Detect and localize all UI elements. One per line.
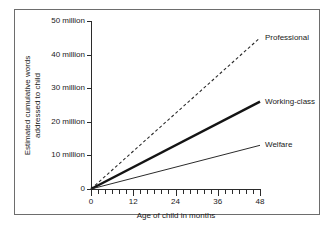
x-tick-28 bbox=[190, 190, 191, 194]
y-axis-title-line1: Estimated cumulative words bbox=[23, 56, 32, 156]
x-tick-14 bbox=[140, 190, 141, 194]
x-tick-34 bbox=[211, 190, 212, 194]
x-tick-38 bbox=[225, 190, 226, 194]
x-tick-10 bbox=[126, 190, 127, 194]
x-tick-12 bbox=[133, 190, 134, 196]
x-tick-30 bbox=[197, 190, 198, 194]
x-tick-22 bbox=[168, 190, 169, 194]
x-tick-label-0: 0 bbox=[89, 198, 93, 206]
x-tick-6 bbox=[112, 190, 113, 194]
x-tick-46 bbox=[253, 190, 254, 194]
series-line-working-class bbox=[91, 102, 260, 189]
x-tick-24 bbox=[176, 190, 177, 196]
series-label-welfare: Welfare bbox=[265, 141, 292, 149]
y-axis-title-line2: addressed to child bbox=[33, 73, 42, 138]
y-tick-label: 10 million bbox=[51, 151, 85, 159]
y-tick-label: 0 bbox=[81, 185, 85, 193]
x-tick-36 bbox=[218, 190, 219, 196]
series-label-working-class: Working-class bbox=[265, 98, 315, 106]
y-tick-label: 30 million bbox=[51, 84, 85, 92]
x-tick-label-24: 24 bbox=[171, 198, 180, 206]
x-tick-4 bbox=[105, 190, 106, 194]
x-tick-label-48: 48 bbox=[256, 198, 265, 206]
x-tick-label-12: 12 bbox=[129, 198, 138, 206]
series-line-welfare bbox=[91, 145, 260, 189]
plot-area bbox=[91, 21, 260, 189]
x-tick-42 bbox=[239, 190, 240, 194]
x-tick-8 bbox=[119, 190, 120, 194]
x-tick-20 bbox=[161, 190, 162, 194]
series-label-professional: Professional bbox=[265, 34, 309, 42]
x-axis-title: Age of child in months bbox=[91, 211, 261, 220]
x-tick-32 bbox=[204, 190, 205, 194]
y-tick-label: 40 million bbox=[51, 51, 85, 59]
x-tick-0 bbox=[91, 190, 92, 196]
y-tick-label: 20 million bbox=[51, 118, 85, 126]
y-tick-label: 50 million bbox=[51, 17, 85, 25]
x-tick-26 bbox=[183, 190, 184, 194]
x-tick-48 bbox=[260, 190, 261, 196]
y-axis-title: Estimated cumulative words addressed to … bbox=[22, 21, 44, 190]
x-tick-18 bbox=[154, 190, 155, 194]
x-tick-16 bbox=[147, 190, 148, 194]
x-tick-40 bbox=[232, 190, 233, 194]
figure-container: Estimated cumulative words addressed to … bbox=[0, 0, 335, 240]
x-tick-2 bbox=[98, 190, 99, 194]
x-tick-44 bbox=[246, 190, 247, 194]
series-svg bbox=[91, 21, 260, 189]
x-tick-label-36: 36 bbox=[213, 198, 222, 206]
